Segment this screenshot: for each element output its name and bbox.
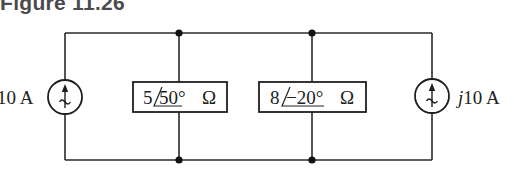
- node-bottom-2: [308, 156, 315, 163]
- right-current-source: [415, 79, 449, 113]
- impedance-box-2: 8 −20° Ω: [259, 82, 366, 112]
- impedance-1-magnitude: 5: [143, 87, 153, 108]
- left-source-label: 10 A: [0, 87, 34, 108]
- impedance-box-1: 5 50° Ω: [133, 82, 227, 112]
- impedance-2-unit: Ω: [340, 87, 354, 108]
- right-source-label-value: 10 A: [463, 87, 500, 108]
- right-source-label-prefix: j: [455, 87, 463, 108]
- right-source-label: j10 A: [455, 87, 500, 108]
- node-bottom-1: [175, 156, 182, 163]
- circuit-diagram: 10 A 5 50° Ω 8 −20° Ω j10 A: [0, 0, 514, 173]
- left-current-source: [48, 80, 82, 114]
- impedance-1-unit: Ω: [202, 87, 216, 108]
- node-top-1: [175, 29, 182, 36]
- node-top-2: [308, 29, 315, 36]
- impedance-2-magnitude: 8: [270, 87, 280, 108]
- impedance-2-angle: −20°: [286, 87, 323, 108]
- impedance-1-angle: 50°: [159, 87, 186, 108]
